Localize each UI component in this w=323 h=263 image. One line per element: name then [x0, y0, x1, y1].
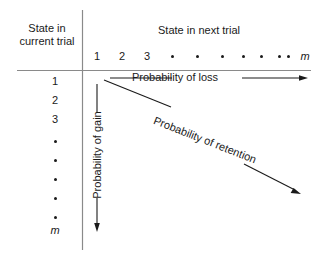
row-axis-title: State in current trial — [18, 22, 76, 47]
loss-arrowhead — [299, 75, 308, 81]
row-tick-label: 2 — [46, 94, 64, 107]
column-ellipsis-dot — [242, 55, 245, 58]
row-ellipsis-dot — [54, 140, 57, 143]
column-ellipsis-dot — [278, 55, 281, 58]
row-tick-label: 3 — [46, 113, 64, 126]
column-tick-label: 1 — [90, 50, 104, 63]
row-tick-label: 1 — [46, 75, 64, 88]
gain-arrowhead — [94, 223, 100, 232]
column-ellipsis-dot — [196, 55, 199, 58]
retention-arrow-lower-segment — [244, 164, 295, 190]
column-axis-title: State in next trial — [88, 24, 310, 37]
column-ellipsis-dot — [260, 55, 263, 58]
markov-transition-diagram: State in current trial State in next tri… — [0, 0, 323, 263]
column-ellipsis-dot — [171, 55, 174, 58]
row-ellipsis-dot — [54, 197, 57, 200]
probability-of-loss-label: Probability of loss — [132, 71, 218, 84]
column-tick-label: m — [298, 50, 312, 63]
row-ellipsis-dot — [54, 178, 57, 181]
column-tick-label: 2 — [115, 50, 129, 63]
row-ellipsis-dot — [54, 216, 57, 219]
row-ellipsis-dot — [54, 159, 57, 162]
retention-arrowhead — [291, 188, 301, 194]
column-tick-label: 3 — [140, 50, 154, 63]
column-ellipsis-dot — [287, 55, 290, 58]
probability-of-retention-label: Probability of retention — [152, 114, 258, 166]
retention-arrow-upper-segment — [104, 80, 171, 107]
column-ellipsis-dot — [221, 55, 224, 58]
probability-of-gain-label: Probability of gain — [91, 111, 104, 198]
row-tick-label: m — [46, 224, 64, 237]
